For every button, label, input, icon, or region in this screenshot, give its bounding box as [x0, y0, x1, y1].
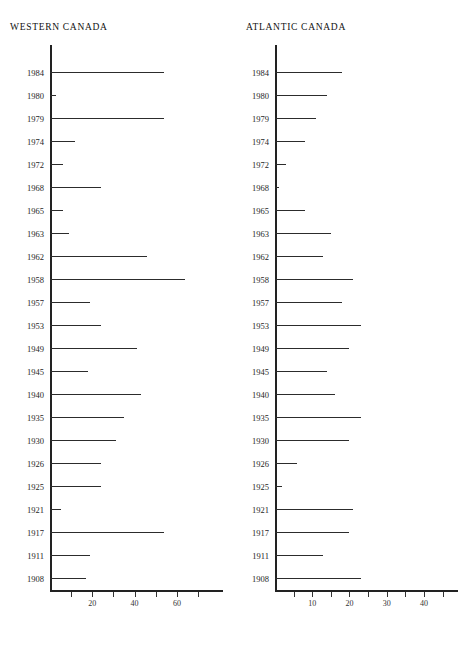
x-axis-tick [387, 592, 388, 597]
year-axis-label: 1980 [230, 91, 269, 101]
year-axis-label: 1935 [230, 413, 269, 423]
bar [275, 164, 286, 166]
year-axis-label: 1940 [0, 390, 44, 400]
bar [50, 532, 164, 534]
year-axis-label: 1958 [0, 275, 44, 285]
figure-canvas: WESTERN CANADA 2040601984198019791974197… [0, 0, 461, 659]
x-axis-tick [198, 592, 199, 597]
x-axis-tick [405, 592, 406, 597]
bar [50, 486, 101, 488]
x-axis-spine [50, 590, 223, 592]
x-axis-tick-label: 30 [383, 599, 391, 608]
x-axis-tick-label: 20 [345, 599, 353, 608]
x-axis-tick [349, 592, 350, 597]
x-axis-tick [156, 592, 157, 597]
year-axis-label: 1968 [0, 183, 44, 193]
year-axis-label: 1953 [0, 321, 44, 331]
x-axis-tick [294, 592, 295, 597]
x-axis-tick-label: 10 [308, 599, 316, 608]
bar [50, 118, 164, 120]
year-axis-label: 1974 [0, 137, 44, 147]
x-axis-tick [443, 592, 444, 597]
x-axis-tick [92, 592, 93, 597]
bar [50, 325, 101, 327]
year-axis-label: 1926 [0, 459, 44, 469]
bar [50, 394, 141, 396]
year-axis-label: 1962 [230, 252, 269, 262]
year-axis-label: 1911 [0, 551, 44, 561]
year-axis-label: 1911 [230, 551, 269, 561]
bar [275, 486, 282, 488]
bar [275, 256, 323, 258]
year-axis-label: 1925 [230, 482, 269, 492]
year-axis-label: 1974 [230, 137, 269, 147]
year-axis-label: 1953 [230, 321, 269, 331]
year-axis-label: 1949 [230, 344, 269, 354]
bar [275, 279, 353, 281]
bar [50, 164, 63, 166]
year-axis-label: 1965 [230, 206, 269, 216]
year-axis-label: 1930 [230, 436, 269, 446]
bar [275, 348, 349, 350]
bar [275, 187, 279, 189]
bar [50, 463, 101, 465]
bar [50, 555, 90, 557]
year-axis-label: 1940 [230, 390, 269, 400]
year-axis-label: 1965 [0, 206, 44, 216]
x-axis-tick [424, 592, 425, 597]
bar [275, 509, 353, 511]
year-axis-label: 1980 [0, 91, 44, 101]
year-axis-label: 1949 [0, 344, 44, 354]
bar [50, 279, 185, 281]
bar [50, 72, 164, 74]
year-axis-label: 1972 [230, 160, 269, 170]
bar [275, 233, 331, 235]
year-axis-label: 1935 [0, 413, 44, 423]
plot-area-western-canada: 2040601984198019791974197219681965196319… [0, 45, 225, 625]
bar [50, 95, 56, 97]
year-axis-label: 1979 [0, 114, 44, 124]
x-axis-tick [71, 592, 72, 597]
year-axis-label: 1921 [230, 505, 269, 515]
bar [275, 210, 305, 212]
bar [275, 440, 349, 442]
year-axis-label: 1963 [230, 229, 269, 239]
year-axis-label: 1917 [0, 528, 44, 538]
year-axis-label: 1908 [0, 574, 44, 584]
year-axis-label: 1984 [0, 68, 44, 78]
x-axis-tick [368, 592, 369, 597]
bar [275, 578, 361, 580]
bar [275, 118, 316, 120]
bar [50, 233, 69, 235]
year-axis-label: 1917 [230, 528, 269, 538]
x-axis-tick-label: 40 [420, 599, 428, 608]
bar [275, 72, 342, 74]
plot-area-atlantic-canada: 1020304019841980197919741972196819651963… [230, 45, 455, 625]
x-axis-tick [135, 592, 136, 597]
bar [50, 371, 88, 373]
bar [275, 555, 323, 557]
year-axis-label: 1930 [0, 436, 44, 446]
bar [50, 417, 124, 419]
bar [50, 578, 86, 580]
year-axis-label: 1908 [230, 574, 269, 584]
x-axis-tick [113, 592, 114, 597]
panel-title-western-canada: WESTERN CANADA [10, 22, 108, 32]
x-axis-spine [275, 590, 458, 592]
x-axis-tick [331, 592, 332, 597]
year-axis-label: 1958 [230, 275, 269, 285]
bar [50, 256, 147, 258]
year-axis-label: 1984 [230, 68, 269, 78]
year-axis-label: 1921 [0, 505, 44, 515]
panel-title-atlantic-canada: ATLANTIC CANADA [246, 22, 346, 32]
bar [275, 302, 342, 304]
year-axis-label: 1968 [230, 183, 269, 193]
year-axis-label: 1962 [0, 252, 44, 262]
bar [275, 95, 327, 97]
bar [275, 463, 297, 465]
bar [275, 394, 335, 396]
year-axis-label: 1963 [0, 229, 44, 239]
bar [50, 210, 63, 212]
bar [50, 302, 90, 304]
bar [275, 532, 349, 534]
